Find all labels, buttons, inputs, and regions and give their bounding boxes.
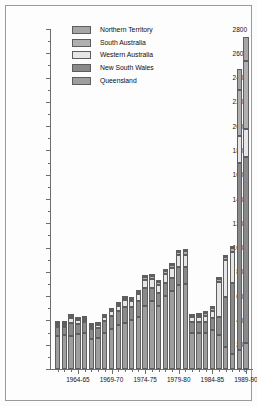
bar-segment-new-south-wales [210, 318, 215, 330]
bar-segment-northern-territory [149, 274, 154, 276]
bar-segment-queensland [223, 347, 228, 369]
x-tick [192, 370, 193, 372]
bar-segment-south-australia [203, 313, 208, 315]
x-tick-label: 1984-85 [201, 376, 224, 383]
bar-segment-queensland [210, 330, 215, 369]
bar-1970-71 [116, 29, 121, 369]
bar-segment-new-south-wales [89, 329, 94, 339]
bar-segment-western-australia [55, 325, 60, 327]
bar-segment-northern-territory [169, 263, 174, 265]
bar-segment-south-australia [210, 308, 215, 310]
bar-segment-western-australia [243, 129, 248, 157]
x-tick [199, 370, 200, 372]
bar-segment-western-australia [95, 325, 100, 328]
x-tick-label: 1974-75 [133, 376, 156, 383]
bar-segment-queensland [136, 317, 141, 369]
chart-frame: Northern Territory South Australia Weste… [5, 5, 252, 401]
bar-1982-83 [196, 29, 201, 369]
y-tick-minor [48, 138, 50, 139]
bar-1986-87 [223, 29, 228, 369]
x-tick-label: 1969-70 [100, 376, 123, 383]
bar-1989-90 [243, 29, 248, 369]
bar-segment-south-australia [136, 292, 141, 294]
bar-segment-queensland [102, 333, 107, 369]
bar-segment-northern-territory [203, 311, 208, 313]
bar-segment-northern-territory [156, 280, 161, 282]
bar-segment-western-australia [116, 306, 121, 311]
x-tick [159, 370, 160, 372]
bar-1976-77 [156, 29, 161, 369]
bar-segment-western-australia [223, 260, 228, 298]
bar-segment-queensland [68, 336, 73, 369]
bar-segment-western-australia [176, 255, 181, 267]
bar-segment-south-australia [176, 252, 181, 256]
y-tick [46, 29, 50, 30]
bar-1972-73 [129, 29, 134, 369]
x-tick [64, 370, 65, 372]
bar-segment-northern-territory [116, 302, 121, 304]
y-tick-minor [48, 211, 50, 212]
plot-area: 0200400600800100012001400160018002000220… [50, 29, 253, 370]
x-tick-major [145, 370, 146, 374]
bar-segment-western-australia [196, 317, 201, 322]
bar-segment-south-australia [109, 309, 114, 311]
bar-1962-63 [62, 29, 67, 369]
y-tick-minor [48, 163, 50, 164]
chart-page: Northern Territory South Australia Weste… [0, 0, 257, 406]
bar-1965-66 [82, 29, 87, 369]
bar-segment-new-south-wales [116, 311, 121, 325]
bar-segment-queensland [176, 285, 181, 369]
bar-segment-new-south-wales [122, 307, 127, 323]
bar-1966-67 [89, 29, 94, 369]
bar-segment-queensland [75, 334, 80, 369]
x-tick [138, 370, 139, 372]
x-tick [71, 370, 72, 372]
x-tick-label: 1964-65 [66, 376, 89, 383]
y-tick-minor [48, 187, 50, 188]
bar-segment-new-south-wales [95, 328, 100, 338]
bar-segment-northern-territory [237, 69, 242, 90]
bar-segment-western-australia [89, 327, 94, 329]
y-tick [46, 223, 50, 224]
bar-segment-northern-territory [55, 321, 60, 323]
bar-segment-south-australia [243, 61, 248, 129]
y-tick-minor [48, 90, 50, 91]
bar-segment-new-south-wales [129, 307, 134, 320]
bar-segment-western-australia [230, 252, 235, 282]
y-tick [46, 272, 50, 273]
bar-1979-80 [176, 29, 181, 369]
bar-segment-northern-territory [210, 306, 215, 308]
bar-1961-62 [55, 29, 60, 369]
y-tick [46, 199, 50, 200]
x-tick [239, 370, 240, 372]
x-tick-major [78, 370, 79, 374]
bar-segment-western-australia [109, 311, 114, 315]
y-tick [46, 345, 50, 346]
bar-1967-68 [95, 29, 100, 369]
bar-segment-new-south-wales [82, 322, 87, 332]
x-tick [91, 370, 92, 372]
bar-segment-queensland [95, 338, 100, 369]
y-axis-line [50, 29, 51, 370]
y-tick [46, 102, 50, 103]
bar-1988-89 [237, 29, 242, 369]
bar-segment-south-australia [183, 251, 188, 255]
bar-segment-western-australia [68, 318, 73, 323]
bar-segment-new-south-wales [176, 267, 181, 285]
bar-segment-northern-territory [109, 308, 114, 310]
y-tick-minor [48, 260, 50, 261]
bar-segment-new-south-wales [230, 283, 235, 355]
bar-segment-south-australia [149, 276, 154, 278]
bar-segment-south-australia [116, 304, 121, 306]
x-tick-major [246, 370, 247, 374]
x-tick [232, 370, 233, 372]
y-tick [46, 126, 50, 127]
bar-segment-south-australia [237, 90, 242, 136]
bar-segment-western-australia [210, 311, 215, 318]
bar-segment-northern-territory [216, 277, 221, 279]
x-tick-major [179, 370, 180, 374]
bar-segment-new-south-wales [136, 301, 141, 317]
bar-segment-queensland [230, 354, 235, 369]
y-tick-minor [48, 308, 50, 309]
bar-segment-queensland [216, 335, 221, 369]
